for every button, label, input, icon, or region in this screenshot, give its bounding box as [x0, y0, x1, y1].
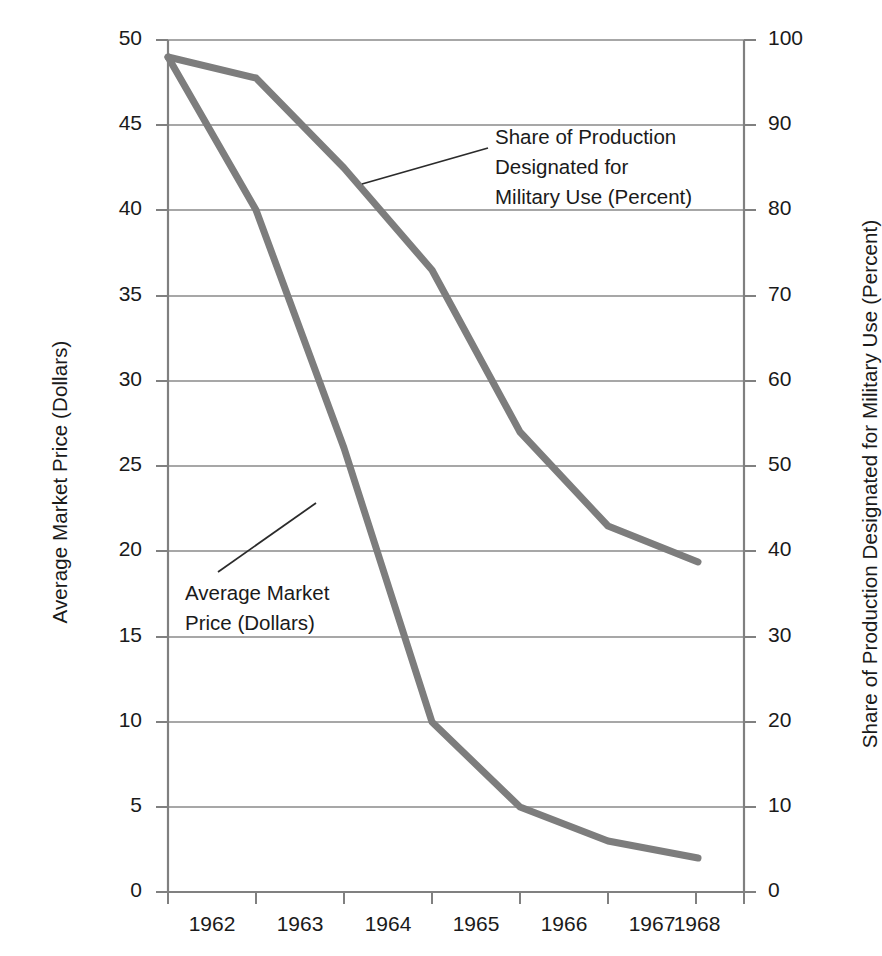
ytick-label-5: 5	[82, 793, 142, 817]
ytick-label-10: 10	[82, 708, 142, 732]
price-annotation-leader-line	[218, 503, 316, 572]
xtick-label-1968: 1968	[652, 912, 742, 936]
ytick-label-25: 25	[82, 452, 142, 476]
y2tick-label-80: 80	[768, 196, 828, 220]
y2tick-label-50: 50	[768, 452, 828, 476]
ytick-label-0: 0	[82, 878, 142, 902]
xtick-label-1966: 1966	[519, 912, 609, 936]
share-annotation-line-2: Designated for	[495, 152, 692, 182]
share-annotation-line-3: Military Use (Percent)	[495, 182, 692, 212]
axis-left-ticks	[156, 40, 168, 892]
y2tick-label-70: 70	[768, 282, 828, 306]
ytick-label-20: 20	[82, 537, 142, 561]
price-annotation-line-2: Price (Dollars)	[185, 608, 329, 638]
ytick-label-45: 45	[82, 111, 142, 135]
y2tick-label-100: 100	[768, 26, 828, 50]
axis-right-ticks	[744, 40, 756, 892]
ytick-label-15: 15	[82, 623, 142, 647]
y2tick-label-20: 20	[768, 708, 828, 732]
ytick-label-35: 35	[82, 282, 142, 306]
y2tick-label-40: 40	[768, 537, 828, 561]
share-annotation: Share of Production Designated for Milit…	[495, 122, 692, 212]
y2tick-label-30: 30	[768, 623, 828, 647]
y2tick-label-90: 90	[768, 111, 828, 135]
xtick-label-1965: 1965	[431, 912, 521, 936]
price-annotation: Average Market Price (Dollars)	[185, 578, 329, 638]
y2tick-label-0: 0	[768, 878, 828, 902]
y2tick-label-60: 60	[768, 367, 828, 391]
xtick-label-1963: 1963	[255, 912, 345, 936]
axis-bottom-ticks	[168, 892, 744, 904]
share-annotation-line-1: Share of Production	[495, 122, 692, 152]
y2tick-label-10: 10	[768, 793, 828, 817]
y-axis-left-title: Average Market Price (Dollars)	[48, 232, 72, 732]
xtick-label-1962: 1962	[167, 912, 257, 936]
xtick-label-1964: 1964	[343, 912, 433, 936]
ytick-label-50: 50	[82, 26, 142, 50]
price-annotation-line-1: Average Market	[185, 578, 329, 608]
ytick-label-40: 40	[82, 196, 142, 220]
ytick-label-30: 30	[82, 367, 142, 391]
share-annotation-leader-line	[362, 148, 488, 184]
y-axis-right-title: Share of Production Designated for Milit…	[858, 134, 882, 834]
